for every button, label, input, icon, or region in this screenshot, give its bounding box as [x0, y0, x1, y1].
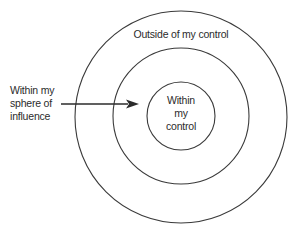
sphere-of-influence-label: Within my sphere of influence: [10, 84, 54, 123]
within-control-label-line-2: my: [151, 107, 211, 120]
sphere-of-influence-label-line-1: Within my: [10, 84, 54, 97]
outside-control-label: Outside of my control: [131, 28, 231, 41]
sphere-of-control-diagram: Outside of my control Within my sphere o…: [0, 0, 292, 231]
sphere-of-influence-label-line-3: influence: [10, 110, 54, 123]
outside-control-label-line: Outside of my control: [131, 28, 231, 41]
within-control-label-line-3: control: [151, 120, 211, 133]
within-control-label: Within my control: [151, 94, 211, 133]
arrow-icon: [61, 100, 139, 109]
sphere-of-influence-label-line-2: sphere of: [10, 97, 54, 110]
within-control-label-line-1: Within: [151, 94, 211, 107]
